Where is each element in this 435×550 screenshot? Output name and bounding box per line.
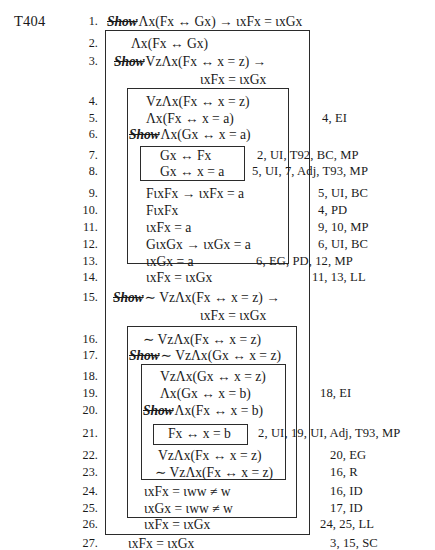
line-number: 14. [62,270,98,285]
line-number: 8. [62,164,98,179]
line-justification: 4, EI [322,111,347,126]
line-number: 10. [62,203,98,218]
formula-text: ∼ VzΛx(Gx ↔ x = z) [161,348,281,363]
line-number: 7. [62,148,98,163]
line-formula: ShowΛx(Gx ↔ x = a) [129,127,251,143]
formula-text: VzΛx(Fx ↔ x = z) [146,94,250,109]
line-formula: Λx(Gx ↔ x = b) [160,386,251,402]
formula-text: Λx(Gx ↔ x = a) [161,127,251,142]
line-number: 5. [62,111,98,126]
formula-text: VzΛx(Gx ↔ x = z) [160,369,266,384]
line-justification: 17, ID [330,501,363,516]
line-formula: Λx(Fx ↔ x = a) [146,111,234,127]
line-justification: 6, UI, BC [318,237,368,252]
formula-text: Gx ↔ Fx [160,148,211,163]
formula-continuation: ɩxFx = ɩxGx [200,72,266,88]
formula-text: FɩxFx [146,203,178,218]
line-number: 1. [62,14,98,29]
line-number: 9. [62,186,98,201]
line-number: 19. [62,386,98,401]
line-formula: ɩxFx = a [146,220,191,236]
line-formula: ɩxFx = ɩww ≠ w [144,484,231,500]
line-justification: 2, UI, 19, UI, Adj, T93, MP [258,426,400,441]
line-number: 17. [62,348,98,363]
line-formula: ∼ VzΛx(Fx ↔ x = z) [143,332,261,348]
formula-text: ∼ VzΛx(Fx ↔ x = z) [155,465,273,480]
formula-text: Λx(Fx ↔ x = b) [175,403,264,418]
formula-text: Fx ↔ x = b [168,426,231,441]
show-keyword: Show [143,403,174,418]
line-number: 2. [62,36,98,51]
formula-text: ɩxGx = a [146,254,194,269]
line-justification: 11, 13, LL [312,270,366,285]
line-formula: ɩxFx = ɩxGx [128,536,194,550]
line-number: 27. [62,536,98,550]
line-formula: ShowΛx(Fx ↔ Gx) → ɩxFx = ɩxGx [107,14,302,30]
line-number: 25. [62,501,98,516]
line-justification: 18, EI [320,386,351,401]
line-justification: 6, EG, PD, 12, MP [256,254,353,269]
line-formula: ɩxGx = a [146,254,194,270]
line-justification: 16, ID [330,484,363,499]
line-formula: ShowΛx(Fx ↔ x = b) [143,403,263,419]
line-formula: FɩxFx [146,203,178,219]
line-number: 11. [62,220,98,235]
show-keyword: Show [129,348,160,363]
show-keyword: Show [107,14,138,29]
line-justification: 9, 10, MP [318,220,369,235]
line-formula: ShowVzΛx(Fx ↔ x = z) → [114,54,266,70]
line-justification: 24, 25, LL [320,517,374,532]
line-formula: GɩxGx → ɩxGx = a [146,237,251,253]
formula-text: VzΛx(Fx ↔ x = z) → [146,54,267,69]
line-number: 12. [62,237,98,252]
formula-text: ɩxFx = ɩxGx [128,536,194,550]
formula-text: ɩxFx = ɩxGx [144,517,210,532]
line-number: 20. [62,403,98,418]
formula-text: FɩxFx → ɩxFx = a [146,186,244,201]
formula-text: ɩxGx = ɩww ≠ w [144,501,233,516]
line-formula: ∼ VzΛx(Fx ↔ x = z) [155,465,273,481]
formula-text: Λx(Fx ↔ Gx) → ɩxFx = ɩxGx [139,14,303,29]
line-number: 3. [62,54,98,69]
formula-text: Λx(Gx ↔ x = b) [160,386,251,401]
formula-text: ɩxFx = a [146,220,191,235]
formula-text: Λx(Fx ↔ Gx) [131,36,208,51]
formula-text: Gx ↔ x = a [160,164,224,179]
line-formula: VzΛx(Fx ↔ x = z) [158,448,262,464]
line-number: 15. [62,290,98,305]
formula-text: Λx(Fx ↔ x = a) [146,111,234,126]
line-formula: Show∼ VzΛx(Gx ↔ x = z) [129,348,281,364]
line-formula: Fx ↔ x = b [168,426,231,442]
theorem-label: T404 [14,13,45,30]
line-justification: 16, R [330,465,358,480]
line-number: 18. [62,369,98,384]
line-justification: 2, UI, T92, BC, MP [257,148,359,163]
show-keyword: Show [113,290,144,305]
line-formula: Gx ↔ x = a [160,164,224,180]
line-number: 16. [62,332,98,347]
line-number: 23. [62,465,98,480]
formula-text: VzΛx(Fx ↔ x = z) [158,448,262,463]
line-formula: FɩxFx → ɩxFx = a [146,186,244,202]
show-keyword: Show [114,54,145,69]
formula-text: ɩxFx = ɩww ≠ w [144,484,231,499]
line-justification: 5, UI, BC [318,186,368,201]
line-number: 22. [62,448,98,463]
line-justification: 4, PD [318,203,347,218]
formula-text: ɩxFx = ɩxGx [146,270,212,285]
formula-text: ∼ VzΛx(Fx ↔ x = z) → [145,290,280,305]
line-formula: ɩxFx = ɩxGx [144,517,210,533]
formula-text: ∼ VzΛx(Fx ↔ x = z) [143,332,261,347]
line-formula: Λx(Fx ↔ Gx) [131,36,208,52]
line-number: 13. [62,254,98,269]
line-justification: 20, EG [330,448,366,463]
line-formula: ɩxFx = ɩxGx [146,270,212,286]
line-justification: 3, 15, SC [330,536,378,550]
line-number: 6. [62,127,98,142]
formula-text: GɩxGx → ɩxGx = a [146,237,251,252]
line-number: 4. [62,94,98,109]
line-number: 26. [62,517,98,532]
line-formula: ɩxGx = ɩww ≠ w [144,501,233,517]
line-formula: VzΛx(Fx ↔ x = z) [146,94,250,110]
line-formula: Show∼ VzΛx(Fx ↔ x = z) → [113,290,280,306]
